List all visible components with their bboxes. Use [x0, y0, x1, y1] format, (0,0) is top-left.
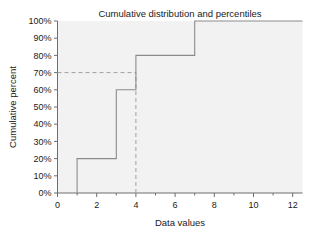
- y-tick-label: 20%: [33, 154, 51, 164]
- x-tick-label: 2: [94, 200, 99, 210]
- y-tick-label: 100%: [28, 16, 51, 26]
- chart-title: Cumulative distribution and percentiles: [98, 8, 261, 19]
- y-axis-title: Cumulative percent: [7, 66, 18, 148]
- y-tick-label: 40%: [33, 119, 51, 129]
- x-axis-title: Data values: [155, 217, 205, 228]
- cumulative-distribution-figure: Cumulative distribution and percentiles …: [0, 0, 314, 234]
- chart-canvas: Cumulative distribution and percentiles …: [0, 0, 314, 234]
- x-tick-label: 8: [212, 200, 217, 210]
- x-tick-label: 10: [248, 200, 258, 210]
- y-tick-label: 60%: [33, 85, 51, 95]
- y-tick-label: 70%: [33, 68, 51, 78]
- x-axis-ticks: 024681012: [55, 193, 298, 210]
- x-tick-label: 6: [173, 200, 178, 210]
- y-tick-label: 50%: [33, 102, 51, 112]
- y-tick-label: 90%: [33, 33, 51, 43]
- y-tick-label: 80%: [33, 51, 51, 61]
- x-tick-label: 4: [133, 200, 138, 210]
- x-tick-label: 12: [288, 200, 298, 210]
- y-tick-label: 0%: [38, 188, 51, 198]
- x-tick-label: 0: [55, 200, 60, 210]
- plot-area-background: [58, 21, 303, 193]
- y-tick-label: 10%: [33, 171, 51, 181]
- y-tick-label: 30%: [33, 137, 51, 147]
- y-axis-ticks: 0%10%20%30%40%50%60%70%80%90%100%: [28, 16, 57, 198]
